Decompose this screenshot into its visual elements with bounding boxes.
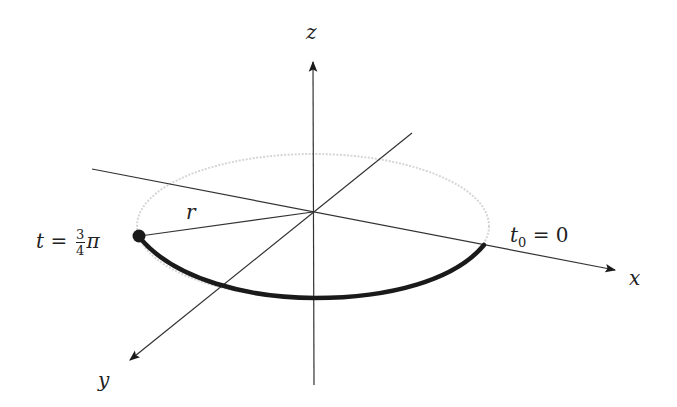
fraction: 3 4 [76,228,85,257]
y-axis-label: y [98,370,109,390]
diagram-canvas [0,0,677,407]
y-axis [130,133,412,360]
fraction-den: 4 [76,244,84,257]
start-eq: = [533,223,550,247]
radius-label: r [186,202,196,222]
end-eq: = [50,229,67,253]
start-label: t0 = 0 [510,225,569,245]
endpoint-dot [133,230,146,243]
z-axis [313,62,314,385]
traversed-arc [140,238,484,298]
radius-line [140,212,313,236]
z-axis-label: z [306,22,317,42]
x-axis [92,169,615,270]
start-value: 0 [556,223,569,247]
x-axis-label: x [629,268,640,288]
fraction-num: 3 [76,228,84,241]
start-sub: 0 [518,235,526,250]
start-var: t [510,223,518,247]
end-var: t [36,229,44,253]
end-label: t = 3 4 π [36,228,100,257]
pi-symbol: π [87,229,100,253]
